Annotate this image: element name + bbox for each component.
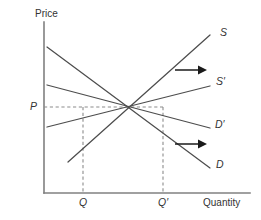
demand-curve-shifted xyxy=(47,85,210,128)
y-axis-label: Price xyxy=(35,9,58,19)
quantity-initial-label: Q xyxy=(79,197,87,208)
supply-demand-figure: Price Quantity P Q Q′ S S′ D′ D xyxy=(0,0,261,220)
supply-curve-original-label: S xyxy=(220,27,227,38)
demand-shift-arrow xyxy=(175,140,207,149)
x-axis-label: Quantity xyxy=(203,198,240,208)
demand-curve-shifted-label: D′ xyxy=(215,119,225,130)
demand-curve-original-label: D xyxy=(216,159,224,170)
curves-group xyxy=(47,35,210,168)
supply-curve-shifted-label: S′ xyxy=(216,76,225,87)
supply-curve-original xyxy=(68,35,210,162)
demand-curve-original xyxy=(47,47,210,168)
price-label: P xyxy=(30,101,37,112)
supply-shift-arrow xyxy=(175,66,207,75)
supply-shift-arrow-head xyxy=(198,66,207,75)
quantity-final-label: Q′ xyxy=(158,197,168,208)
demand-shift-arrow-head xyxy=(198,140,207,149)
